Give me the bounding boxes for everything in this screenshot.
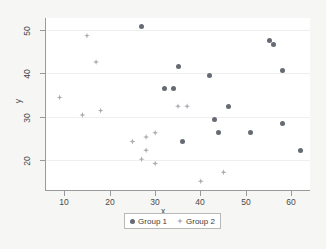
data-point-2-12 bbox=[139, 156, 145, 162]
data-point-2-7 bbox=[184, 103, 190, 109]
data-point-1-13 bbox=[248, 130, 253, 135]
data-point-1-11 bbox=[280, 121, 285, 126]
y-tick-40 bbox=[40, 73, 45, 74]
x-tick-30 bbox=[155, 191, 156, 196]
legend-label-group-1: Group 1 bbox=[138, 217, 167, 226]
y-tick-label-50: 50 bbox=[22, 21, 32, 41]
data-point-2-3 bbox=[57, 94, 63, 100]
data-point-2-10 bbox=[129, 138, 135, 144]
x-tick-60 bbox=[291, 191, 292, 196]
data-point-2-9 bbox=[143, 134, 149, 140]
data-point-1-10 bbox=[212, 117, 217, 122]
data-point-1-15 bbox=[298, 148, 303, 153]
data-point-1-3 bbox=[207, 73, 212, 78]
legend-entry-group-2[interactable]: Group 2 bbox=[177, 217, 215, 226]
y-tick-50 bbox=[40, 30, 45, 31]
legend-label-group-2: Group 2 bbox=[186, 217, 215, 226]
y-tick-30 bbox=[40, 117, 45, 118]
data-point-1-5 bbox=[271, 42, 276, 47]
scatter-plot-figure: 50 40 30 20 10 20 30 40 50 60 y x Group … bbox=[0, 0, 326, 249]
data-point-2-4 bbox=[98, 108, 104, 114]
diamond-marker-icon bbox=[177, 218, 183, 224]
x-axis-line bbox=[45, 190, 310, 191]
y-tick-label-40: 40 bbox=[22, 64, 32, 84]
y-tick-label-20: 20 bbox=[22, 151, 32, 171]
gridline-y-30 bbox=[46, 117, 310, 118]
circle-marker-icon bbox=[130, 219, 135, 224]
data-point-2-14 bbox=[221, 169, 227, 175]
plot-area bbox=[46, 18, 310, 190]
x-tick-40 bbox=[200, 191, 201, 196]
data-point-2-2 bbox=[93, 59, 99, 65]
data-point-2-11 bbox=[143, 147, 149, 153]
gridline-y-50 bbox=[46, 30, 310, 31]
data-point-2-8 bbox=[152, 130, 158, 136]
data-point-1-9 bbox=[226, 104, 231, 109]
gridline-y-20 bbox=[46, 160, 310, 161]
x-tick-20 bbox=[110, 191, 111, 196]
y-tick-label-30: 30 bbox=[22, 108, 32, 128]
gridline-y-40 bbox=[46, 73, 310, 74]
data-point-1-2 bbox=[176, 64, 181, 69]
data-point-2-13 bbox=[152, 161, 158, 167]
legend: Group 1 Group 2 bbox=[124, 213, 221, 229]
data-point-1-1 bbox=[139, 24, 144, 29]
x-tick-50 bbox=[246, 191, 247, 196]
data-point-2-15 bbox=[198, 178, 204, 184]
data-point-1-7 bbox=[162, 86, 167, 91]
data-point-2-1 bbox=[84, 33, 90, 39]
x-tick-10 bbox=[64, 191, 65, 196]
data-point-1-14 bbox=[180, 139, 185, 144]
data-point-1-8 bbox=[171, 86, 176, 91]
y-axis-title: y bbox=[13, 94, 23, 108]
y-axis-line bbox=[45, 18, 46, 190]
legend-entry-group-1[interactable]: Group 1 bbox=[130, 217, 167, 226]
y-tick-20 bbox=[40, 160, 45, 161]
data-point-1-12 bbox=[216, 130, 221, 135]
data-point-2-6 bbox=[175, 103, 181, 109]
